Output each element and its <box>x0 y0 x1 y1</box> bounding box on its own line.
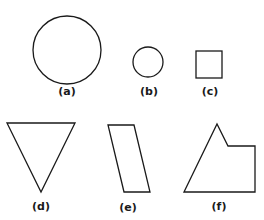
shape-b-small-circle <box>133 47 163 77</box>
label-f: (f) <box>212 200 227 213</box>
shapes-canvas <box>0 0 264 220</box>
shape-c-square <box>196 51 222 78</box>
label-c: (c) <box>202 85 219 98</box>
shape-d-inverted-triangle <box>7 123 75 192</box>
label-a: (a) <box>58 85 75 98</box>
label-d: (d) <box>32 200 50 213</box>
shape-a-large-circle <box>33 16 101 84</box>
shape-e-parallelogram <box>108 125 150 192</box>
shape-f-pentagon <box>184 124 255 192</box>
label-e: (e) <box>119 201 137 214</box>
label-b: (b) <box>140 85 158 98</box>
